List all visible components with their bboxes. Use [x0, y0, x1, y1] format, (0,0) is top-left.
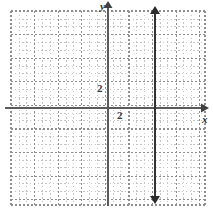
y-axis-label: y	[100, 1, 105, 12]
coordinate-plane-figure: y x 2 2	[0, 0, 213, 210]
plot-canvas	[0, 0, 213, 210]
plot-line-arrowhead-top	[150, 6, 160, 14]
y-axis-tick-label-2: 2	[97, 83, 103, 94]
x-axis-label: x	[202, 114, 208, 125]
x-axis-tick-label-2: 2	[117, 110, 123, 121]
